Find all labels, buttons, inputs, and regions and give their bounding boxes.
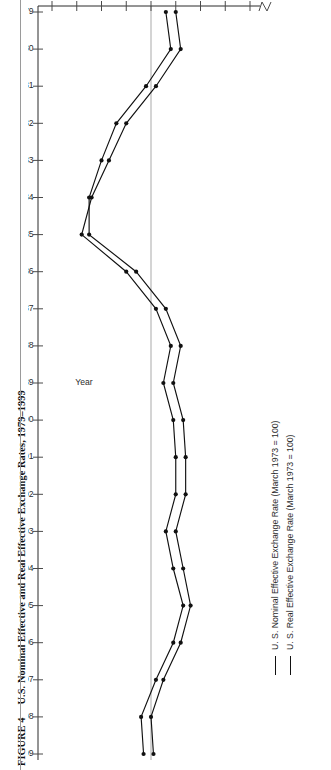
tick-label-group: 1401301201101009080706019791980198119821… [28,0,255,758]
series-group [80,10,193,756]
svg-text:1991: 1991 [28,451,34,461]
figure-title-text: U.S. Nominal Effective and Real Effectiv… [16,390,27,704]
legend-swatch-nominal [275,656,276,675]
legend-swatch-real [290,656,291,675]
svg-text:1993: 1993 [28,526,34,536]
svg-text:1998: 1998 [28,711,34,721]
svg-text:1984: 1984 [28,192,34,202]
legend-item-nominal: U. S. Nominal Effective Exchange Rate (M… [270,421,280,675]
svg-text:1981: 1981 [28,80,34,90]
svg-text:Year: Year [75,377,93,387]
svg-text:1995: 1995 [28,600,34,610]
legend-label-real: U. S. Real Effective Exchange Rate (Marc… [285,435,295,650]
svg-text:1999: 1999 [28,748,34,758]
svg-text:1980: 1980 [28,43,34,53]
svg-text:1982: 1982 [28,118,34,128]
svg-text:1997: 1997 [28,674,34,684]
svg-text:1986: 1986 [28,266,34,276]
svg-text:1989: 1989 [28,377,34,387]
svg-text:1996: 1996 [28,637,34,647]
figure-number: FIGURE 4 [16,717,27,766]
svg-text:1990: 1990 [28,414,34,424]
tick-group [33,1,271,754]
svg-text:1987: 1987 [28,303,34,313]
title-divider [20,0,21,770]
figure-title: FIGURE 4U.S. Nominal Effective and Real … [16,390,28,770]
legend-label-nominal: U. S. Nominal Effective Exchange Rate (M… [270,421,280,650]
figure-title-block: FIGURE 4U.S. Nominal Effective and Real … [0,0,28,770]
legend: U. S. Nominal Effective Exchange Rate (M… [262,0,331,770]
axis-group [38,6,260,760]
svg-text:1979: 1979 [28,6,34,16]
svg-text:1988: 1988 [28,340,34,350]
svg-text:1994: 1994 [28,563,34,573]
svg-text:1983: 1983 [28,155,34,165]
axis-title-group: Year [75,377,93,387]
svg-text:1992: 1992 [28,489,34,499]
legend-item-real: U. S. Real Effective Exchange Rate (Marc… [285,435,295,675]
svg-text:1985: 1985 [28,229,34,239]
